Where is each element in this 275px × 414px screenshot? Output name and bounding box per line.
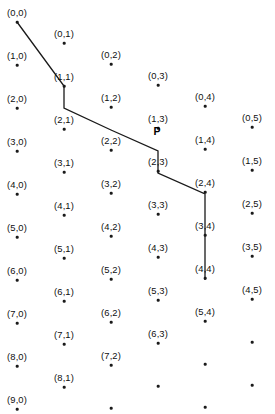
lattice-point-label: (1,4) — [195, 134, 215, 145]
lattice-point-label: (2,2) — [101, 135, 121, 146]
lattice-point-label: (4,2) — [101, 221, 121, 232]
lattice-point-label: (3,1) — [54, 157, 74, 168]
lattice-point-label: (6,1) — [54, 286, 74, 297]
lattice-point-label: (2,0) — [7, 93, 27, 104]
path-label-P: P — [153, 125, 160, 137]
lattice-point-label: (4,1) — [54, 200, 74, 211]
lattice-point-label: (3,4) — [195, 220, 215, 231]
lattice-point-label: (5,3) — [148, 285, 168, 296]
lattice-point-label: (0,5) — [242, 112, 262, 123]
lattice-point-label: (6,0) — [7, 265, 27, 276]
lattice-point-label: (7,2) — [101, 350, 121, 361]
lattice-point-label: (2,4) — [195, 177, 215, 188]
lattice-point-label: (3,2) — [101, 178, 121, 189]
lattice-point-label: (1,2) — [101, 92, 121, 103]
lattice-point-label: (1,3) — [148, 113, 168, 124]
lattice-point-label: (6,2) — [101, 307, 121, 318]
lattice-point-label: (1,5) — [242, 155, 262, 166]
lattice-point-label: (0,2) — [101, 49, 121, 60]
lattice-point-label: (5,0) — [7, 222, 27, 233]
lattice-point-label: (0,0) — [7, 7, 27, 18]
lattice-point-label: (2,1) — [54, 114, 74, 125]
lattice-point-label: (7,1) — [54, 329, 74, 340]
lattice-path-P — [17, 22, 205, 280]
path-polyline-layer — [0, 0, 275, 414]
lattice-point-label: (4,0) — [7, 179, 27, 190]
lattice-point-label: (1,1) — [54, 71, 74, 82]
lattice-point-label: (9,0) — [7, 394, 27, 405]
lattice-point-label: (7,0) — [7, 308, 27, 319]
lattice-path-figure: (0,0)(1,0)(2,0)(3,0)(4,0)(5,0)(6,0)(7,0)… — [0, 0, 275, 414]
lattice-point-label: (6,3) — [148, 328, 168, 339]
lattice-point-label: (4,4) — [195, 263, 215, 274]
lattice-point-label: (3,3) — [148, 199, 168, 210]
lattice-point-label: (3,0) — [7, 136, 27, 147]
lattice-point-label: (5,1) — [54, 243, 74, 254]
lattice-point-label: (2,5) — [242, 198, 262, 209]
lattice-point-label: (0,3) — [148, 70, 168, 81]
lattice-point-label: (8,0) — [7, 351, 27, 362]
lattice-point-label: (8,1) — [54, 372, 74, 383]
lattice-point-label: (0,1) — [54, 28, 74, 39]
lattice-point-label: (4,3) — [148, 242, 168, 253]
lattice-point-label: (1,0) — [7, 50, 27, 61]
lattice-point-label: (5,2) — [101, 264, 121, 275]
lattice-point-label: (2,3) — [148, 156, 168, 167]
lattice-point-label: (0,4) — [195, 91, 215, 102]
lattice-point-label: (4,5) — [242, 284, 262, 295]
lattice-point-label: (3,5) — [242, 241, 262, 252]
lattice-point-label: (5,4) — [195, 306, 215, 317]
